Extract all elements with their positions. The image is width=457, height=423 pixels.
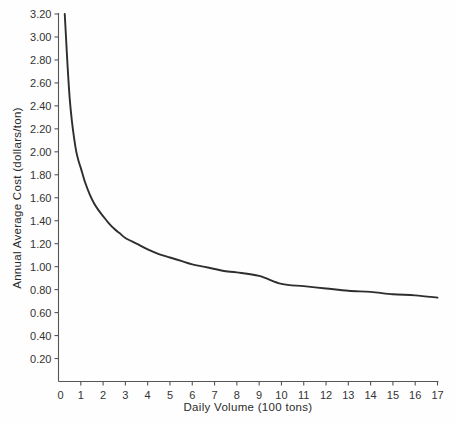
y-tick-label: 2.40 [30,100,51,112]
x-axis-title: Daily Volume (100 tons) [184,401,313,413]
y-tick-label: 3.20 [30,8,51,20]
y-tick-label: 2.20 [30,123,51,135]
x-tick-label: 13 [342,389,354,401]
y-tick-label: 0.40 [30,330,51,342]
x-tick-label: 16 [409,389,421,401]
chart-canvas: 00.200.400.600.801.001.201.401.601.802.0… [0,0,457,423]
x-tick-label: 8 [234,389,240,401]
y-tick-label: 3.00 [30,31,51,43]
x-tick-label: 9 [256,389,262,401]
x-tick-label: 6 [189,389,195,401]
x-tick-label: 1 [78,389,84,401]
x-tick-label: 3 [122,389,128,401]
x-tick-label: 2 [100,389,106,401]
x-tick-label: 14 [364,389,376,401]
y-tick-label: 1.00 [30,261,51,273]
y-tick-label: 2.80 [30,54,51,66]
x-tick-label: 4 [145,389,151,401]
x-tick-label: 7 [211,389,217,401]
cost-curve [65,14,438,298]
y-tick-label: 0.60 [30,307,51,319]
x-tick-label: 15 [387,389,399,401]
chart-figure: 00.200.400.600.801.001.201.401.601.802.0… [0,0,457,423]
y-tick-label: 0 [57,389,63,401]
y-tick-label: 1.80 [30,169,51,181]
y-tick-label: 1.20 [30,238,51,250]
y-axis-title: Annual Average Cost (dollars/ton) [11,107,23,289]
x-axis-ticks: 1234567891011121314151617 [78,382,444,401]
y-tick-label: 0.80 [30,284,51,296]
y-tick-label: 1.60 [30,192,51,204]
x-tick-label: 10 [275,389,287,401]
y-tick-label: 1.40 [30,215,51,227]
y-tick-label: 2.00 [30,146,51,158]
y-tick-label: 2.60 [30,77,51,89]
x-tick-label: 17 [431,389,443,401]
x-tick-label: 5 [167,389,173,401]
y-tick-label: 0.20 [30,353,51,365]
x-tick-label: 11 [298,389,309,401]
x-tick-label: 12 [320,389,332,401]
